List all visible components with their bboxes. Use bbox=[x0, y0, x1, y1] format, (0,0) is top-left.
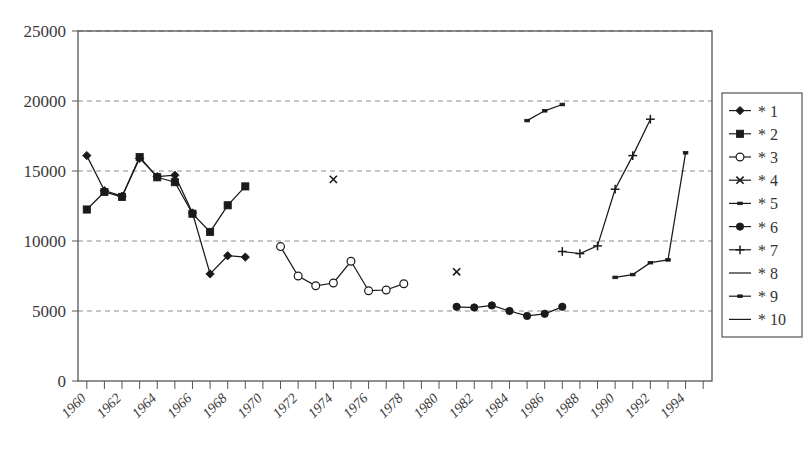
data-point bbox=[83, 206, 90, 213]
y-axis-tick-label: 25000 bbox=[24, 22, 67, 41]
legend-item-label: * 3 bbox=[758, 149, 778, 166]
legend-item-label: * 5 bbox=[758, 195, 778, 212]
data-point bbox=[294, 272, 302, 280]
data-point bbox=[365, 287, 373, 295]
legend-item-label: * 1 bbox=[758, 103, 778, 120]
data-point bbox=[488, 302, 495, 309]
data-point bbox=[312, 282, 320, 290]
data-point bbox=[136, 153, 143, 160]
data-point bbox=[382, 286, 390, 294]
y-axis-tick-label: 0 bbox=[58, 372, 67, 391]
data-point bbox=[347, 257, 355, 265]
legend-item-label: * 2 bbox=[758, 126, 778, 143]
legend-item-label: * 7 bbox=[758, 242, 778, 259]
data-point bbox=[506, 307, 513, 314]
data-point bbox=[206, 228, 213, 235]
data-point bbox=[189, 210, 196, 217]
data-point bbox=[541, 310, 548, 317]
data-point bbox=[560, 103, 565, 106]
data-point bbox=[171, 179, 178, 186]
legend-item-label: * 4 bbox=[758, 172, 778, 189]
chart-background bbox=[0, 0, 808, 466]
legend-marker-circle-filled-icon bbox=[736, 223, 743, 230]
data-point bbox=[453, 303, 460, 310]
data-point bbox=[683, 152, 688, 155]
data-point bbox=[525, 119, 530, 122]
data-point bbox=[542, 110, 547, 113]
legend-marker-square-small-icon bbox=[738, 202, 743, 205]
y-axis-tick-label: 15000 bbox=[24, 162, 67, 181]
data-point bbox=[224, 202, 231, 209]
legend-item-label: * 9 bbox=[758, 288, 778, 305]
line-chart: 0500010000150002000025000 19601962196419… bbox=[0, 0, 808, 466]
data-point bbox=[400, 280, 408, 288]
data-point bbox=[329, 279, 337, 287]
data-point bbox=[613, 276, 618, 279]
chart-figure: 0500010000150002000025000 19601962196419… bbox=[0, 0, 808, 466]
data-point bbox=[523, 312, 530, 319]
data-point bbox=[630, 273, 635, 276]
legend-marker-square-icon bbox=[736, 130, 743, 137]
y-axis-tick-label: 10000 bbox=[24, 232, 67, 251]
y-axis-tick-label: 5000 bbox=[32, 302, 66, 321]
legend-item-label: * 8 bbox=[758, 265, 778, 282]
y-axis-tick-label: 20000 bbox=[24, 92, 67, 111]
data-point bbox=[118, 193, 125, 200]
data-point bbox=[559, 303, 566, 310]
data-point bbox=[648, 261, 653, 264]
legend-marker-square-small-icon bbox=[738, 295, 743, 298]
data-point bbox=[277, 243, 285, 251]
data-point bbox=[154, 174, 161, 181]
data-point bbox=[471, 304, 478, 311]
data-point bbox=[101, 188, 108, 195]
legend-marker-circle-open-icon bbox=[736, 153, 744, 161]
data-point bbox=[242, 183, 249, 190]
legend-item-label: * 10 bbox=[758, 311, 786, 328]
data-point bbox=[666, 259, 671, 262]
legend-item-label: * 6 bbox=[758, 219, 778, 236]
legend: * 1* 2* 3* 4* 5* 6* 7* 8* 9* 10 bbox=[722, 93, 802, 337]
